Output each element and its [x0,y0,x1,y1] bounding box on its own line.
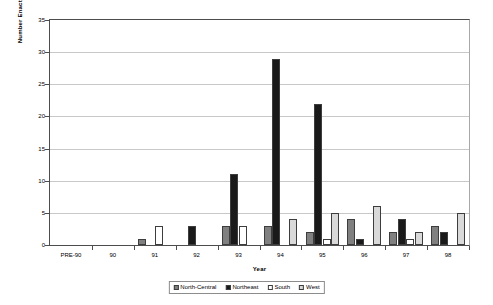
bar [289,219,297,245]
y-axis-title: Number Enacted [17,0,23,78]
bar [457,213,465,245]
bar [306,232,314,245]
bar [347,219,355,245]
x-axis-tick-mark [134,246,135,250]
x-axis-tick-label: 97 [385,252,427,258]
legend-label: North-Central [180,284,216,291]
legend-item: West [299,284,320,291]
legend-item: North-Central [173,284,216,291]
legend-item: South [267,284,290,291]
x-axis-tick-mark [343,246,344,250]
bar [398,219,406,245]
y-axis-tick-label: 30 [5,49,45,55]
bar-group [343,20,385,245]
x-axis-tick-mark [301,246,302,250]
x-axis-tick-mark [469,246,470,250]
bar [272,59,280,245]
x-axis-tick-label: 94 [260,252,302,258]
bar [314,104,322,245]
bar [323,239,331,245]
x-axis-tick-mark [176,246,177,250]
bar [239,226,247,245]
legend-swatch-icon [267,285,272,290]
bar [431,226,439,245]
bar [155,226,163,245]
x-axis-tick-label: 90 [92,252,134,258]
bar [389,232,397,245]
legend-label: South [274,284,290,291]
x-axis-tick-label: 96 [343,252,385,258]
bar-group [260,20,302,245]
x-axis-tick-label: 93 [218,252,260,258]
bar [415,232,423,245]
y-axis-tick-label: 15 [5,146,45,152]
legend-swatch-icon [225,285,230,290]
bar [222,226,230,245]
legend-item: Northeast [225,284,258,291]
bar [356,239,364,245]
bar [138,239,146,245]
bars-layer [50,20,469,245]
x-axis-tick-mark [218,246,219,250]
bar [440,232,448,245]
bar [230,174,238,245]
x-axis-tick-mark [260,246,261,250]
legend-label: West [306,284,320,291]
x-axis-tick-mark [92,246,93,250]
bar-group [301,20,343,245]
bar [331,213,339,245]
y-axis-tick-label: 5 [5,210,45,216]
y-axis-tick-label: 20 [5,113,45,119]
y-axis-tick-label: 0 [5,242,45,248]
chart-legend: North-CentralNortheastSouthWest [168,281,324,294]
y-axis-tick-label: 10 [5,178,45,184]
y-axis-tick-label: 35 [5,17,45,23]
bar-chart: Number Enacted 05101520253035 PRE-909091… [0,0,493,305]
bar [373,206,381,245]
bar-group [50,20,92,245]
x-axis-tick-mark [385,246,386,250]
x-axis-title: Year [49,266,470,272]
x-axis-tick-label: 95 [301,252,343,258]
legend-label: Northeast [232,284,258,291]
x-axis-tick-label: 98 [427,252,469,258]
bar-group [385,20,427,245]
bar-group [134,20,176,245]
bar-group [176,20,218,245]
y-axis-tick-label: 25 [5,81,45,87]
bar-group [218,20,260,245]
bar [406,239,414,245]
x-axis-tick-label: 91 [134,252,176,258]
bar [264,226,272,245]
x-axis-tick-label: PRE-90 [50,252,92,258]
bar-group [92,20,134,245]
bar [188,226,196,245]
bar-group [427,20,469,245]
legend-swatch-icon [173,285,178,290]
legend-swatch-icon [299,285,304,290]
x-axis-tick-label: 92 [176,252,218,258]
x-axis-tick-mark [427,246,428,250]
